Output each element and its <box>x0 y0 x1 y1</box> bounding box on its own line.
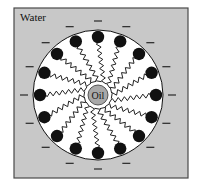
polar-head <box>38 67 50 79</box>
polar-head <box>114 142 126 154</box>
polar-head <box>70 142 82 154</box>
polar-head <box>51 48 63 60</box>
polar-head <box>145 111 157 123</box>
micelle-diagram: Water Oil <box>0 0 199 190</box>
polar-head <box>34 89 46 101</box>
polar-head <box>51 130 63 142</box>
polar-head <box>133 48 145 60</box>
polar-head <box>70 35 82 47</box>
polar-head <box>92 147 104 159</box>
oil-label: Oil <box>92 90 105 101</box>
polar-head <box>92 31 104 43</box>
polar-head <box>150 89 162 101</box>
polar-head <box>114 35 126 47</box>
polar-head <box>38 111 50 123</box>
polar-head <box>145 67 157 79</box>
water-label: Water <box>20 11 46 23</box>
polar-head <box>133 130 145 142</box>
